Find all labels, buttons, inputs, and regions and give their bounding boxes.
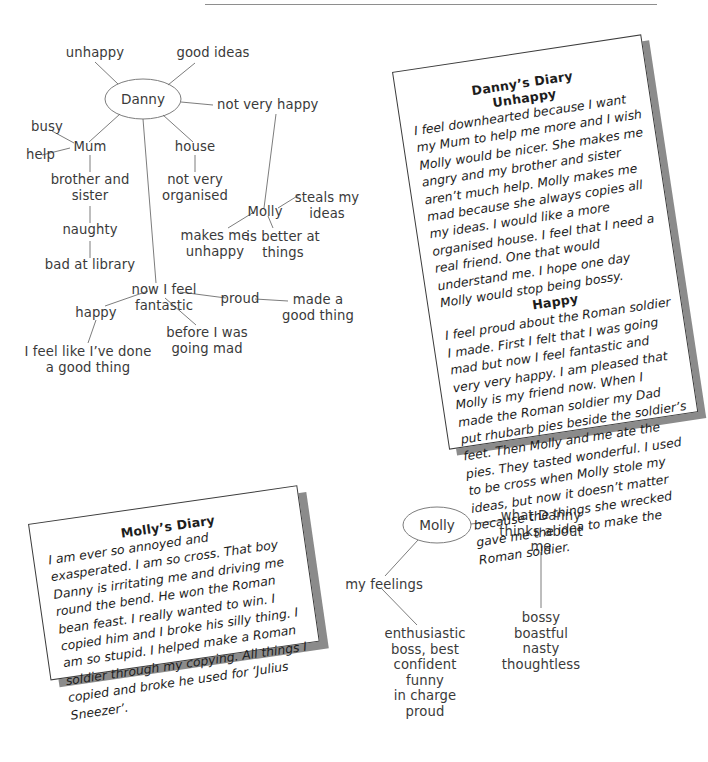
node-busy: busy <box>31 119 63 135</box>
mollys-diary-card: Molly’s Diary I am ever so annoyed and e… <box>28 485 320 680</box>
node-steals-my-ideas: steals my ideas <box>295 190 360 221</box>
node-my-feelings-list: enthusiastic boss, best confident funny … <box>384 626 465 719</box>
line-danny-goodideas <box>168 63 195 85</box>
molly-center-label: Molly <box>419 517 455 533</box>
danny-center-label: Danny <box>121 91 165 107</box>
node-house: house <box>175 139 215 155</box>
node-before-i-was-going-mad: before I was going mad <box>166 325 248 356</box>
node-i-feel-like-done-good-thing: I feel like I’ve done a good thing <box>25 344 152 375</box>
dannys-diary-happy-text: I feel proud about the Roman soldier I m… <box>444 294 706 569</box>
node-my-feelings: my feelings <box>345 577 423 593</box>
node-good-ideas: good ideas <box>176 45 249 61</box>
node-is-better-at-things: is better at things <box>246 229 320 260</box>
line-notveryhappy-molly <box>264 114 276 208</box>
line-danny-unhappy <box>95 62 118 84</box>
node-naughty: naughty <box>62 222 117 238</box>
node-proud: proud <box>221 291 260 307</box>
line-happy-ifeellike <box>88 320 96 343</box>
line-danny-nowifeel <box>143 119 156 283</box>
node-mum: Mum <box>74 139 107 155</box>
node-bossy-boastful-nasty-thoughtless: bossy boastful nasty thoughtless <box>502 610 580 672</box>
node-made-a-good-thing: made a good thing <box>282 292 354 323</box>
node-not-very-organised: not very organised <box>162 172 228 203</box>
line-danny-mum <box>89 114 120 142</box>
node-molly-sub: Molly <box>247 204 282 220</box>
line-danny-notveryhappy <box>181 102 213 105</box>
node-bad-at-library: bad at library <box>45 257 135 273</box>
dannys-diary-card: Danny’s Diary Unhappy I feel downhearted… <box>392 34 698 449</box>
top-divider-rule <box>205 4 657 5</box>
page-canvas: Danny unhappy good ideas not very happy … <box>0 0 708 762</box>
node-happy: happy <box>75 305 117 321</box>
node-now-i-feel-fantastic: now I feel fantastic <box>131 282 196 313</box>
node-unhappy: unhappy <box>66 45 124 61</box>
line-danny-house <box>163 115 193 142</box>
mollys-diary-card-face: Molly’s Diary I am ever so annoyed and e… <box>28 485 320 680</box>
node-brother-and-sister: brother and sister <box>51 172 130 203</box>
node-not-very-happy: not very happy <box>217 97 319 113</box>
node-help: help <box>26 147 55 163</box>
line-myfeelings-list <box>382 589 417 625</box>
line-molly2-myfeelings <box>385 540 418 576</box>
mollys-diary-text: I am ever so annoyed and exasperated. I … <box>47 516 315 723</box>
dannys-diary-unhappy-text: I feel downhearted because I want my Mum… <box>413 88 667 311</box>
node-makes-me-unhappy: makes me unhappy <box>180 228 249 259</box>
